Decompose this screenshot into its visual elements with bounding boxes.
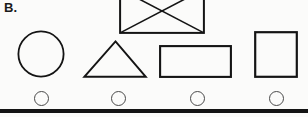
answer-bubble-a[interactable]	[34, 91, 49, 106]
square-shape	[254, 31, 298, 78]
answer-bubble-c[interactable]	[190, 91, 205, 106]
answer-bubble-b[interactable]	[111, 91, 126, 106]
triangle-shape	[83, 40, 147, 78]
question-label: B.	[4, 1, 17, 15]
answer-bubble-d[interactable]	[269, 91, 284, 106]
envelope-shape	[119, 0, 205, 34]
worksheet-question-panel: B.	[0, 0, 308, 117]
bottom-rule-divider	[0, 109, 308, 113]
rectangle-shape	[159, 45, 232, 78]
circle-shape	[17, 30, 65, 78]
